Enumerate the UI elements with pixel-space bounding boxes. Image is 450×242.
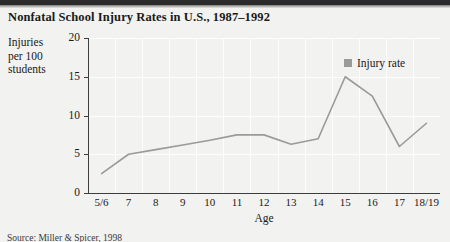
y-tick-label: 20 (52, 31, 80, 43)
x-tick-label: 9 (180, 196, 186, 208)
legend-label-injury-rate: Injury rate (357, 57, 405, 69)
chart-screenshot: Nonfatal School Injury Rates in U.S., 19… (0, 0, 450, 242)
y-tick-label-wrap: 5 (50, 154, 80, 155)
y-tick-label-wrap: 10 (50, 116, 80, 117)
y-axis-line (88, 38, 89, 194)
x-tick-label: 13 (286, 196, 297, 208)
x-tick-label: 5/6 (95, 196, 109, 208)
legend-swatch-icon (344, 59, 352, 67)
series-polyline-injury-rate (102, 77, 427, 174)
page-title: Nonfatal School Injury Rates in U.S., 19… (8, 10, 270, 25)
x-tick-label: 8 (153, 196, 159, 208)
x-tick-label: 11 (232, 196, 243, 208)
y-tick-mark (84, 116, 88, 117)
x-axis-title: Age (88, 212, 440, 224)
y-tick-label: 5 (52, 147, 80, 159)
scan-artifact-fade (0, 5, 450, 8)
y-tick-label-wrap: 0 (50, 193, 80, 194)
y-tick-mark (84, 77, 88, 78)
x-axis-line (88, 193, 440, 194)
x-tick-label: 14 (313, 196, 324, 208)
x-tick-label: 18/19 (414, 196, 439, 208)
y-tick-label-wrap: 15 (50, 77, 80, 78)
y-axis-caption-line-2: per 100 (8, 50, 70, 64)
y-tick-mark (84, 38, 88, 39)
legend: Injury rate (344, 57, 405, 69)
x-tick-label: 17 (394, 196, 405, 208)
y-tick-label: 15 (52, 70, 80, 82)
x-tick-label: 7 (126, 196, 132, 208)
y-tick-mark (84, 154, 88, 155)
x-tick-label: 10 (204, 196, 215, 208)
y-tick-label: 10 (52, 109, 80, 121)
y-tick-mark (84, 193, 88, 194)
x-tick-label: 15 (340, 196, 351, 208)
y-tick-label: 0 (52, 186, 80, 198)
x-tick-label: 12 (259, 196, 270, 208)
source-note: Source: Miller & Spicer, 1998 (7, 233, 122, 242)
y-tick-label-wrap: 20 (50, 38, 80, 39)
x-tick-label: 16 (367, 196, 378, 208)
